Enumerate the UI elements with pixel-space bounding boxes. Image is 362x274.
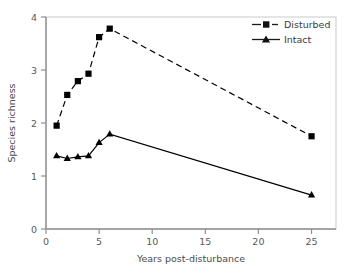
data-point-disturbed-25 [308, 133, 314, 139]
x-axis-title: Years post-disturbance [136, 253, 245, 264]
legend-square-marker-icon [263, 21, 269, 27]
legend-label-disturbed: Disturbed [284, 19, 330, 30]
legend-entry-disturbed[interactable]: Disturbed [252, 19, 330, 30]
data-point-disturbed-2 [64, 92, 70, 98]
species-richness-chart: 0 1 2 3 4 0 5 10 15 20 25 Years post-dis… [0, 0, 362, 274]
series-intact [53, 130, 315, 197]
data-point-disturbed-4 [85, 71, 91, 77]
series-disturbed [54, 26, 315, 140]
y-axis-ticks [41, 17, 46, 229]
x-axis-ticks [46, 229, 312, 234]
data-point-disturbed-5 [96, 34, 102, 40]
x-tick-label-15: 15 [199, 236, 211, 247]
legend-label-intact: Intact [284, 34, 312, 45]
y-tick-label-0: 0 [31, 224, 37, 235]
x-tick-label-10: 10 [146, 236, 158, 247]
y-axis-title: Species richness [6, 83, 17, 162]
data-point-intact-5 [96, 139, 103, 145]
y-tick-label-1: 1 [31, 171, 37, 182]
data-point-intact-1 [53, 152, 60, 158]
x-tick-label-20: 20 [252, 236, 264, 247]
chart-legend: Disturbed Intact [243, 13, 338, 49]
x-tick-label-0: 0 [43, 236, 49, 247]
x-tick-label-25: 25 [305, 236, 317, 247]
y-tick-label-3: 3 [31, 65, 37, 76]
y-tick-label-4: 4 [31, 12, 37, 23]
data-point-disturbed-1 [54, 123, 60, 129]
x-tick-label-5: 5 [96, 236, 102, 247]
y-tick-label-2: 2 [31, 118, 37, 129]
data-series-layer [53, 26, 315, 198]
chart-figure-root: 0 1 2 3 4 0 5 10 15 20 25 Years post-dis… [0, 0, 362, 274]
series-line-disturbed [57, 29, 312, 137]
data-point-disturbed-6 [107, 26, 113, 32]
series-line-intact [57, 134, 312, 195]
data-point-intact-6 [106, 130, 113, 136]
plot-frame [46, 17, 336, 229]
legend-entry-intact[interactable]: Intact [252, 34, 312, 45]
data-point-disturbed-3 [75, 78, 81, 84]
